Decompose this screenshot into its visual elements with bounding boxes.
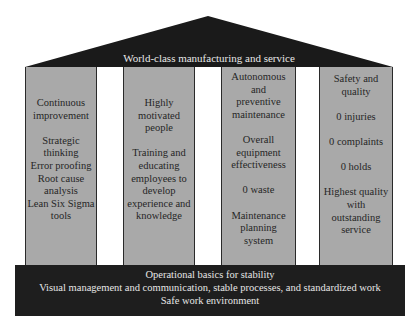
roof-title: World-class manufacturing and service xyxy=(0,52,418,65)
pillar-motivated-people: Highly motivated people Training and edu… xyxy=(123,67,195,265)
pillar-items: Strategic thinking Error proofing Root c… xyxy=(26,135,96,223)
pillar-items: Training and educating employees to deve… xyxy=(124,147,194,223)
pillar-item-injuries: 0 injuries xyxy=(320,111,392,124)
pillar-item-oee: Overall equipment effectiveness xyxy=(222,134,295,172)
pillar-item-maintenance-planning: Maintenance planning system xyxy=(222,210,295,248)
foundation-title: Operational basics for stability xyxy=(15,269,405,282)
pillar-title: Safety and quality xyxy=(320,73,392,98)
pillar-title: Continuous improvement xyxy=(26,97,96,122)
pillar-item-waste: 0 waste xyxy=(222,184,295,197)
foundation-line-safe-environment: Safe work environment xyxy=(15,295,405,308)
pillar-title: Autonomous and preventive maintenance xyxy=(222,71,295,121)
pillar-title: Highly motivated people xyxy=(124,97,194,135)
pillar-continuous-improvement: Continuous improvement Strategic thinkin… xyxy=(25,67,97,265)
pillar-item-holds: 0 holds xyxy=(320,161,392,174)
foundation-line-visual-management: Visual management and communication, sta… xyxy=(15,282,405,295)
pillar-safety-quality: Safety and quality 0 injuries 0 complain… xyxy=(319,67,393,265)
foundation-operational-basics: Operational basics for stability Visual … xyxy=(15,265,405,316)
pillar-maintenance: Autonomous and preventive maintenance Ov… xyxy=(221,67,296,265)
pillar-item-complaints: 0 complaints xyxy=(320,136,392,149)
pillar-item-highest-quality: Highest quality with outstanding service xyxy=(320,186,392,236)
